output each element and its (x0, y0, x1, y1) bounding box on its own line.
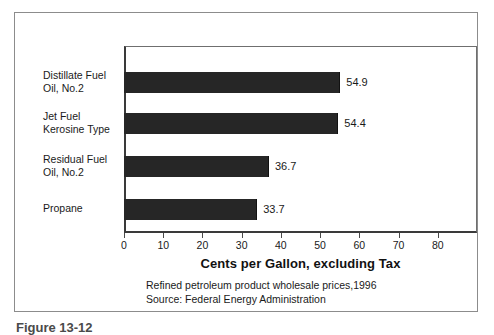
figure-root: 54.954.436.733.7 Distillate Fuel Oil, No… (0, 0, 494, 335)
x-axis-tick (359, 233, 360, 238)
bar-value-label: 54.4 (344, 118, 365, 129)
x-axis-tick-label: 50 (308, 239, 332, 251)
x-axis-tick-label: 10 (151, 239, 175, 251)
figure-outer-frame: 54.954.436.733.7 Distillate Fuel Oil, No… (14, 12, 478, 312)
x-axis-tick (399, 233, 400, 238)
x-axis-tick-label: 70 (387, 239, 411, 251)
x-axis-tick (124, 233, 125, 238)
x-axis-tick (320, 233, 321, 238)
bar (124, 156, 269, 177)
x-axis-tick-label: 40 (269, 239, 293, 251)
bar (124, 113, 338, 134)
bar (124, 72, 340, 93)
category-label: Jet Fuel Kerosine Type (43, 110, 123, 136)
x-axis-title: Cents per Gallon, excluding Tax (124, 256, 477, 271)
x-axis-tick-label: 60 (347, 239, 371, 251)
x-axis-tick-label: 20 (190, 239, 214, 251)
category-label: Propane (43, 202, 123, 215)
x-axis-tick-label: 30 (230, 239, 254, 251)
x-axis-tick (281, 233, 282, 238)
x-axis-tick (163, 233, 164, 238)
x-axis-tick (202, 233, 203, 238)
x-axis-tick (242, 233, 243, 238)
bar-value-label: 36.7 (275, 161, 296, 172)
x-axis-tick-label: 80 (426, 239, 450, 251)
x-axis-tick-label: 0 (112, 239, 136, 251)
x-axis-tick (438, 233, 439, 238)
caption-block: Refined petroleum product wholesale pric… (146, 279, 377, 306)
bar (124, 199, 257, 220)
caption-line-1: Refined petroleum product wholesale pric… (146, 279, 377, 293)
bars-layer: 54.954.436.733.7 (124, 46, 477, 233)
category-label: Distillate Fuel Oil, No.2 (43, 69, 123, 95)
caption-line-2: Source: Federal Energy Administration (146, 293, 377, 307)
bar-value-label: 33.7 (263, 204, 284, 215)
figure-number-caption: Figure 13-12 (16, 320, 93, 335)
bar-value-label: 54.9 (346, 77, 367, 88)
category-label: Residual Fuel Oil, No.2 (43, 153, 123, 179)
